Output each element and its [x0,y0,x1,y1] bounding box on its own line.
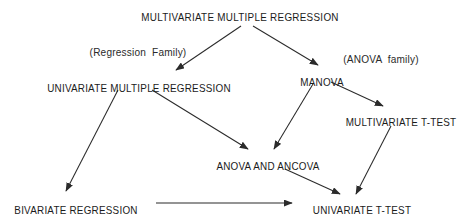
edge-manova-to-anova-and-ancova [274,84,313,149]
node-univariate-t-test[interactable]: UNIVARIATE T-TEST [313,204,411,216]
edge-multivariate-t-test-to-univariate-t-test [356,126,391,194]
arrow-layer [0,0,475,221]
diagram-canvas: MULTIVARIATE MULTIPLE REGRESSION UNIVARI… [0,0,475,221]
edge-anova-and-ancova-to-univariate-t-test [285,169,340,194]
node-manova[interactable]: MANOVA [300,76,343,88]
node-multivariate-multiple-regression[interactable]: MULTIVARIATE MULTIPLE REGRESSION [141,11,339,23]
edge-univariate-multiple-regression-to-anova-and-ancova [152,90,248,149]
node-bivariate-regression[interactable]: BIVARIATE REGRESSION [14,204,137,216]
node-univariate-multiple-regression[interactable]: UNIVARIATE MULTIPLE REGRESSION [47,82,231,94]
label-anova-family: (ANOVA family) [343,53,419,65]
node-multivariate-t-test[interactable]: MULTIVARIATE T-TEST [346,116,457,128]
edge-root-to-manova [253,26,318,65]
label-regression-family: (Regression Family) [90,46,187,58]
edge-univariate-multiple-regression-to-bivariate-regression [66,90,118,191]
node-anova-and-ancova[interactable]: ANOVA AND ANCOVA [216,160,319,172]
